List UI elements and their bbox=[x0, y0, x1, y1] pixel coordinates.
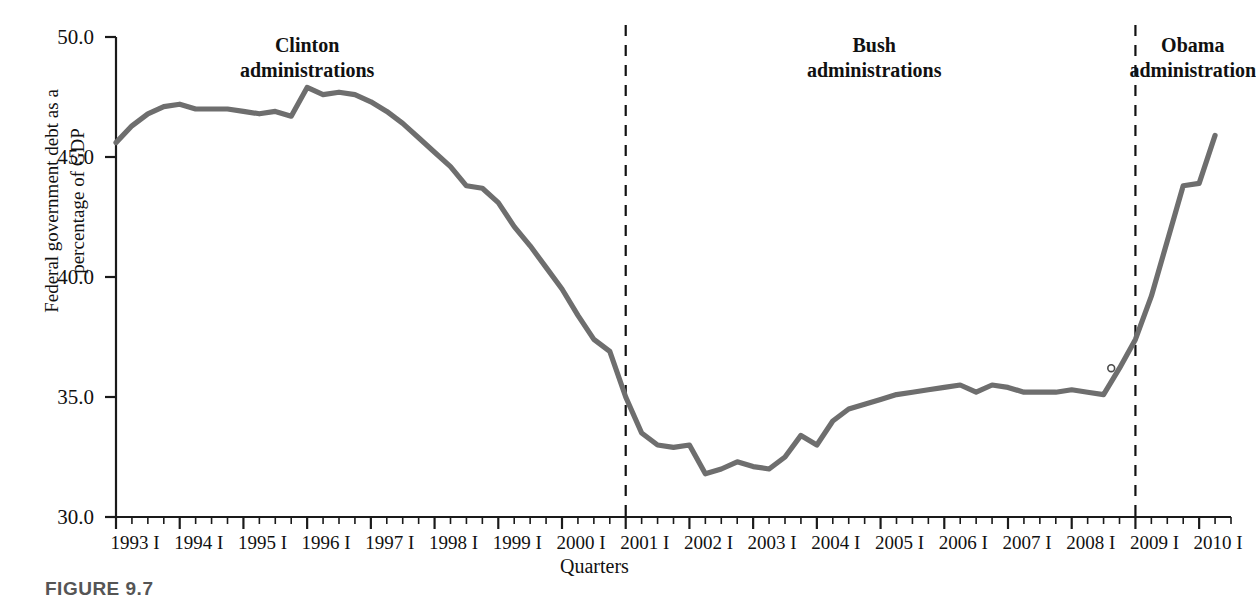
annotation-clinton: Clinton administrations bbox=[240, 33, 374, 83]
x-tick-label: 2006 I bbox=[939, 533, 988, 552]
x-tick-label: 2004 I bbox=[811, 533, 860, 552]
x-tick-label: 1999 I bbox=[493, 533, 542, 552]
x-tick-label: 2002 I bbox=[684, 533, 733, 552]
x-tick-label: 2005 I bbox=[875, 533, 924, 552]
annotation-obama: Obama administration bbox=[1129, 33, 1256, 83]
figure-caption: FIGURE 9.7 bbox=[45, 578, 153, 599]
x-tick-label: 1998 I bbox=[429, 533, 478, 552]
2008-q4-marker bbox=[1108, 365, 1115, 372]
x-tick-label: 1993 I bbox=[110, 533, 159, 552]
y-tick-label: 30.0 bbox=[34, 507, 94, 528]
y-tick-label: 35.0 bbox=[34, 387, 94, 408]
x-tick-label: 2003 I bbox=[748, 533, 797, 552]
x-tick-label: 1994 I bbox=[174, 533, 223, 552]
x-tick-label: 2000 I bbox=[556, 533, 605, 552]
x-tick-label: 2001 I bbox=[620, 533, 669, 552]
y-tick-label: 45.0 bbox=[34, 147, 94, 168]
x-tick-label: 2007 I bbox=[1002, 533, 1051, 552]
x-tick-label: 1996 I bbox=[302, 533, 351, 552]
x-tick-label: 2008 I bbox=[1066, 533, 1115, 552]
debt-gdp-line bbox=[116, 87, 1215, 473]
x-tick-label: 2009 I bbox=[1130, 533, 1179, 552]
x-tick-label: 1995 I bbox=[238, 533, 287, 552]
y-tick-label: 40.0 bbox=[34, 267, 94, 288]
y-tick-label: 50.0 bbox=[34, 27, 94, 48]
x-tick-label: 2010 I bbox=[1194, 533, 1243, 552]
annotation-bush: Bush administrations bbox=[807, 33, 941, 83]
x-tick-label: 1997 I bbox=[365, 533, 414, 552]
x-axis-title: Quarters bbox=[560, 556, 629, 576]
